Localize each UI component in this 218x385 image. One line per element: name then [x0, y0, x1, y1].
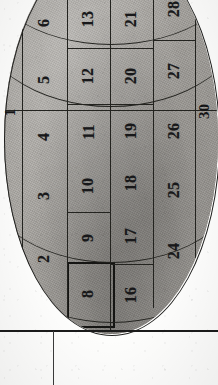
grid-divider-v3 — [110, 0, 111, 330]
seg-col2-17-16 — [110, 264, 154, 265]
cell-3[interactable]: 3 — [22, 166, 67, 226]
grid-divider-v4 — [153, 0, 154, 308]
cell-label: 27 — [166, 63, 182, 79]
seg-col1-13-12 — [67, 48, 111, 49]
cell-21[interactable]: 21 — [110, 0, 153, 48]
oval-diagram-plate: 7 6 5 4 3 2 14 — [0, 0, 218, 332]
grid-divider-v1 — [22, 0, 23, 320]
grid-divider-v5 — [195, 0, 196, 258]
seg-col1-10-9 — [67, 212, 111, 213]
cell-label: 19 — [124, 123, 140, 139]
cell-label: 13 — [81, 11, 97, 27]
cell-label: 24 — [166, 243, 182, 259]
cell-label: 18 — [124, 175, 140, 191]
cell-9[interactable]: 9 — [67, 212, 110, 264]
seg-col2-21-20 — [110, 48, 154, 49]
cell-label: 2 — [36, 255, 52, 263]
oval-shape: 7 6 5 4 3 2 14 — [4, 0, 218, 334]
cell-17[interactable]: 17 — [110, 208, 153, 264]
cell-label: 5 — [36, 76, 52, 84]
seg-col2-20-19 — [110, 104, 154, 105]
axis-label-right: 30 — [196, 104, 213, 119]
cell-2[interactable]: 2 — [22, 226, 67, 292]
cell-label: 4 — [36, 133, 52, 141]
cell-10[interactable]: 10 — [67, 160, 110, 212]
cell-label: 28 — [166, 1, 182, 17]
cell-label: 3 — [36, 192, 52, 200]
cell-18[interactable]: 18 — [110, 158, 153, 208]
page-canvas: 7 6 5 4 3 2 14 — [0, 0, 218, 385]
cell-label: 16 — [124, 287, 140, 303]
cell-4[interactable]: 4 — [22, 108, 67, 166]
cell-label: 21 — [124, 11, 140, 27]
cell-25[interactable]: 25 — [153, 160, 195, 220]
cell-28[interactable]: 28 — [153, 0, 195, 40]
cell-11[interactable]: 11 — [67, 104, 110, 160]
cell-label: 26 — [166, 123, 182, 139]
cell-label: 20 — [124, 68, 140, 84]
cell-27[interactable]: 27 — [153, 40, 195, 102]
cell-label: 12 — [81, 68, 97, 84]
cell-16[interactable]: 16 — [110, 264, 153, 326]
cell-label: 17 — [124, 228, 140, 244]
cell-label: 9 — [80, 234, 96, 242]
cell-24[interactable]: 24 — [153, 220, 195, 282]
cell-label: 6 — [36, 19, 52, 27]
cell-label: 11 — [81, 124, 97, 140]
cell-grid: 7 6 5 4 3 2 14 — [4, 0, 218, 334]
cell-8-emphasis-outline — [67, 262, 115, 328]
axis-label-left: 1 — [2, 109, 19, 117]
cell-label: 25 — [166, 182, 182, 198]
vertical-rule — [53, 331, 54, 385]
cell-20[interactable]: 20 — [110, 48, 153, 104]
cell-6[interactable]: 6 — [22, 0, 67, 52]
cell-label: 10 — [81, 178, 97, 194]
seg-col3-28-27 — [153, 40, 196, 41]
cell-13[interactable]: 13 — [67, 0, 110, 48]
cell-12[interactable]: 12 — [67, 48, 110, 104]
cell-5[interactable]: 5 — [22, 52, 67, 108]
horizontal-rule — [0, 330, 218, 332]
central-axis-line — [4, 110, 218, 111]
seg-col1-12-11 — [67, 104, 111, 105]
cell-19[interactable]: 19 — [110, 104, 153, 158]
